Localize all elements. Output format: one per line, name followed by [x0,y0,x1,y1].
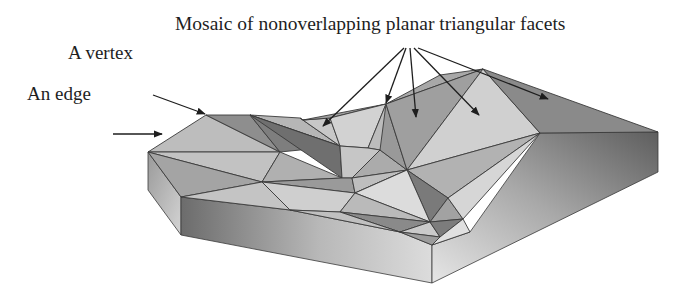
facets-label: Mosaic of nonoverlapping planar triangul… [175,14,565,34]
edge-label: An edge [27,84,91,103]
vertex-label: A vertex [68,43,133,62]
vertex-arrow [153,95,205,114]
